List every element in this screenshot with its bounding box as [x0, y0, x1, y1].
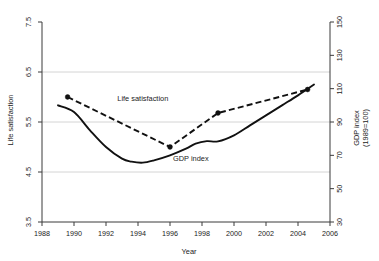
series-annotations-layer: Life satisfactionGDP index — [117, 94, 209, 163]
series-line-life-satisfaction — [68, 90, 308, 148]
x-axis: 1988199019921994199619982000200220042006 — [34, 222, 338, 238]
x-tick-label: 1994 — [130, 229, 146, 238]
x-tick-label: 2002 — [258, 229, 274, 238]
y-tick-label-right: 70 — [335, 151, 344, 159]
y-axis-left: 3.54.55.56.57.5 — [24, 17, 42, 227]
y-axis-right-subtitle: (1989=100) — [361, 109, 370, 147]
y-axis-right: 30507090110130150 — [330, 16, 344, 226]
data-point-marker — [168, 145, 173, 150]
series-line-gdp-index — [58, 85, 314, 163]
life-satisfaction-gdp-line-chart: 1988199019921994199619982000200220042006… — [0, 0, 379, 261]
y-tick-label-right: 30 — [335, 218, 344, 226]
x-tick-label: 1992 — [98, 229, 114, 238]
x-tick-label: 1988 — [34, 229, 50, 238]
x-tick-label: 1990 — [66, 229, 82, 238]
y-tick-label-right: 150 — [335, 16, 344, 28]
y-tick-label-right: 130 — [335, 49, 344, 61]
series-annotation-life-satisfaction: Life satisfaction — [117, 94, 168, 103]
data-point-marker — [65, 95, 70, 100]
x-tick-label: 2006 — [322, 229, 338, 238]
x-tick-label: 1998 — [194, 229, 210, 238]
y-tick-label-right: 110 — [335, 83, 344, 94]
y-tick-label-left: 4.5 — [24, 167, 33, 177]
x-tick-label: 2004 — [290, 229, 306, 238]
x-axis-title: Year — [182, 247, 197, 256]
chart-container: 1988199019921994199619982000200220042006… — [0, 0, 379, 261]
y-axis-left-title: Life satisfaction — [6, 95, 15, 146]
y-tick-label-left: 3.5 — [24, 217, 33, 227]
y-tick-label-right: 50 — [335, 185, 344, 193]
x-tick-label: 1996 — [162, 229, 178, 238]
y-tick-label-right: 90 — [335, 118, 344, 126]
series-annotation-gdp-index: GDP index — [173, 154, 209, 163]
y-axis-right-title: GDP index — [352, 110, 361, 146]
x-tick-label: 2000 — [226, 229, 242, 238]
y-tick-label-left: 6.5 — [24, 67, 33, 77]
data-point-marker — [216, 111, 221, 116]
y-tick-label-left: 5.5 — [24, 117, 33, 127]
y-tick-label-left: 7.5 — [24, 17, 33, 27]
data-series-layer — [58, 85, 314, 163]
